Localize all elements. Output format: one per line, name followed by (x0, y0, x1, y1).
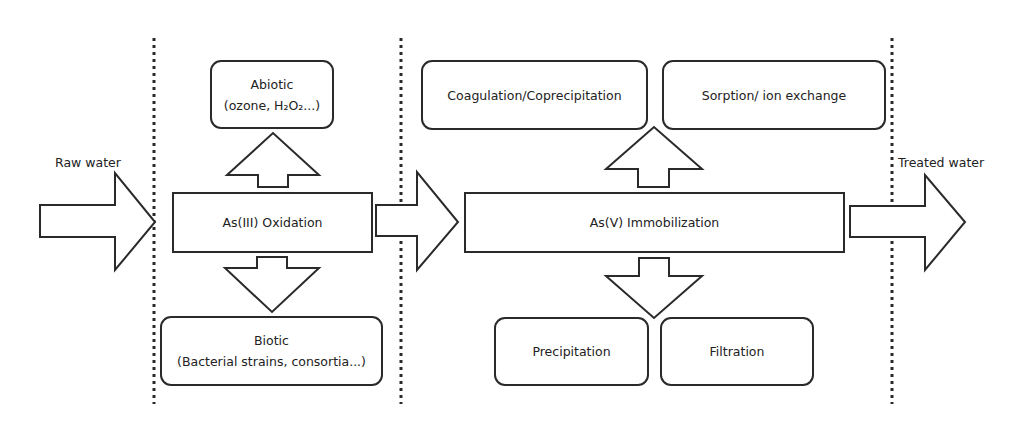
as5-immobilization-box: As(V) Immobilization (464, 192, 845, 253)
as3-oxidation-label: As(III) Oxidation (222, 212, 322, 233)
precipitation-box: Precipitation (494, 317, 649, 386)
treated-water-arrow-right-icon (850, 175, 965, 270)
abiotic-arrow-up-icon (227, 133, 319, 187)
sorption-ion-exchange-label: Sorption/ ion exchange (702, 85, 846, 106)
raw-water-label: Raw water (55, 156, 121, 170)
sorption-ion-exchange-box: Sorption/ ion exchange (662, 60, 886, 130)
biotic-detail: (Bacterial strains, consortia...) (177, 351, 366, 372)
treated-water-label: Treated water (898, 156, 984, 170)
biotic-arrow-down-icon (225, 257, 319, 312)
abiotic-detail: (ozone, H₂O₂...) (224, 95, 320, 116)
biotic-title: Biotic (254, 330, 289, 351)
arsenic-treatment-diagram: Raw water Treated water Abiotic (ozone, … (0, 0, 1027, 425)
precipitation-label: Precipitation (532, 341, 610, 362)
as5-immobilization-label: As(V) Immobilization (590, 212, 720, 233)
immobilization-arrow-up-icon (606, 127, 702, 187)
raw-water-arrow-right-icon (40, 173, 155, 270)
coagulation-coprecipitation-label: Coagulation/Coprecipitation (447, 85, 621, 106)
abiotic-oxidation-box: Abiotic (ozone, H₂O₂...) (210, 60, 334, 129)
biotic-oxidation-box: Biotic (Bacterial strains, consortia...) (160, 316, 383, 386)
oxidation-to-immobilization-arrow-right-icon (376, 172, 458, 270)
immobilization-arrow-down-icon (606, 258, 702, 318)
as3-oxidation-box: As(III) Oxidation (172, 192, 373, 253)
abiotic-title: Abiotic (251, 74, 294, 95)
filtration-box: Filtration (660, 317, 814, 386)
filtration-label: Filtration (710, 341, 765, 362)
coagulation-coprecipitation-box: Coagulation/Coprecipitation (421, 60, 648, 130)
